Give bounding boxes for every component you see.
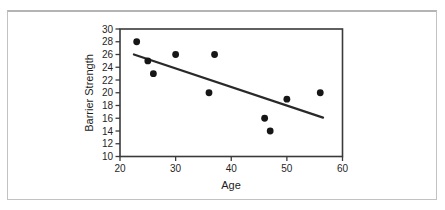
y-tick-label: 30 (102, 24, 114, 35)
y-tick-label: 10 (102, 151, 114, 162)
y-tick-label: 20 (102, 87, 114, 98)
y-tick-label: 16 (102, 113, 114, 124)
y-axis-title: Barrier Strength (83, 54, 95, 132)
data-point (283, 96, 290, 103)
regression-line (134, 55, 323, 118)
data-series-group (133, 38, 323, 134)
data-point (267, 128, 274, 135)
data-point (261, 115, 268, 122)
plot-frame-group (120, 29, 343, 157)
y-tick-label: 24 (102, 62, 114, 73)
y-tick-label: 12 (102, 138, 114, 149)
data-point (206, 89, 213, 96)
y-tick-label: 26 (102, 49, 114, 60)
y-tick-label: 18 (102, 100, 114, 111)
x-tick-label: 50 (281, 163, 293, 174)
axis-ticks-group: 10121416182022242628302030405060 (102, 24, 349, 175)
data-point (211, 51, 218, 58)
y-tick-label: 28 (102, 36, 114, 47)
x-tick-label: 20 (114, 163, 126, 174)
data-point (133, 38, 140, 45)
figure-page: 10121416182022242628302030405060 Barrier… (0, 0, 445, 210)
data-point (150, 70, 157, 77)
x-tick-label: 60 (337, 163, 349, 174)
data-point (144, 57, 151, 64)
data-point (317, 89, 324, 96)
scatter-chart: 10121416182022242628302030405060 Barrier… (0, 0, 445, 210)
x-tick-label: 30 (170, 163, 182, 174)
y-tick-label: 14 (102, 126, 114, 137)
x-tick-label: 40 (226, 163, 238, 174)
y-tick-label: 22 (102, 75, 114, 86)
plot-frame (120, 29, 343, 157)
x-axis-title: Age (221, 179, 241, 191)
data-point (172, 51, 179, 58)
